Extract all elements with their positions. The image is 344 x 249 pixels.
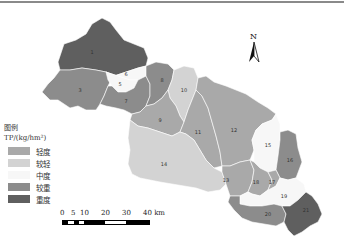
subbasin-label: 12: [231, 127, 237, 133]
scale-bar: 0 5 10 20 30 40 km: [62, 209, 150, 225]
subbasin-label: 6: [124, 71, 127, 77]
watershed-map: 1 6 5 3 7 8 10 9 11 12 14 13 15 16 18 17…: [0, 0, 344, 249]
subbasin-label: 16: [287, 157, 293, 163]
legend-swatch: [8, 171, 30, 179]
legend-title: 图例: [4, 124, 50, 133]
legend-label: 较重: [36, 182, 50, 193]
legend-label: 较轻: [36, 158, 50, 169]
scale-tick: 30: [122, 209, 131, 217]
scale-tick: 20: [101, 209, 110, 217]
legend-item: 重度: [4, 193, 50, 205]
subbasin-label: 20: [265, 211, 271, 217]
legend-unit: TP/(kg/hm²): [4, 133, 50, 143]
legend-item: 中度: [4, 169, 50, 181]
legend-item: 较重: [4, 181, 50, 193]
subbasin-label: 8: [160, 77, 163, 83]
subbasin-label: 1: [90, 49, 93, 55]
north-label: N: [250, 32, 257, 41]
subbasin-label: 19: [281, 193, 287, 199]
legend-item: 较轻: [4, 157, 50, 169]
subbasin-1: [58, 18, 148, 76]
subbasin-label: 7: [124, 98, 127, 104]
legend-label: 重度: [36, 194, 50, 205]
north-arrow: N: [246, 32, 266, 68]
subbasin-label: 17: [269, 179, 275, 185]
legend-item: 轻度: [4, 145, 50, 157]
subbasin-label: 5: [118, 81, 121, 87]
legend-swatch: [8, 195, 30, 203]
scale-tick: 40 km: [143, 209, 165, 217]
legend-swatch: [8, 159, 30, 167]
subbasin-label: 10: [181, 87, 187, 93]
scale-tick: 0: [60, 209, 64, 217]
legend-swatch: [8, 183, 30, 191]
subbasin-label: 18: [253, 179, 259, 185]
map-legend: 图例 TP/(kg/hm²) 轻度 较轻 中度 较重 重度: [4, 124, 50, 205]
subbasin-label: 13: [223, 177, 229, 183]
subbasin-label: 3: [78, 87, 81, 93]
scale-bar-graphic: [62, 220, 150, 225]
subbasin-16: [276, 130, 302, 180]
legend-label: 中度: [36, 170, 50, 181]
subbasin-label: 14: [161, 161, 167, 167]
subbasin-label: 15: [265, 142, 271, 148]
scale-tick: 10: [80, 209, 89, 217]
subbasin-label: 9: [158, 117, 161, 123]
subbasin-label: 11: [195, 129, 201, 135]
scale-tick: 5: [71, 209, 75, 217]
subbasin-label: 21: [303, 207, 309, 213]
legend-label: 轻度: [36, 146, 50, 157]
legend-swatch: [8, 147, 30, 155]
